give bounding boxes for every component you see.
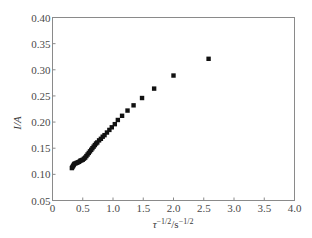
y-tick-label: 0.40 bbox=[31, 12, 51, 24]
plot-frame bbox=[53, 18, 295, 201]
scatter-chart: 00.51.01.52.02.53.03.54.0 0.050.100.150.… bbox=[0, 0, 312, 238]
y-axis-ticks: 0.050.100.150.200.250.300.350.40 bbox=[31, 12, 55, 207]
x-tick-label: 3.5 bbox=[257, 202, 271, 214]
x-axis-ticks: 00.51.01.52.02.53.03.54.0 bbox=[50, 198, 302, 214]
y-tick-label: 0.30 bbox=[31, 64, 51, 76]
y-tick-label: 0.35 bbox=[31, 38, 51, 50]
data-point-marker bbox=[171, 73, 175, 77]
x-tick-label: 2.5 bbox=[197, 202, 211, 214]
data-points bbox=[70, 57, 211, 171]
data-point-marker bbox=[131, 103, 135, 107]
y-tick-label: 0.25 bbox=[31, 90, 51, 102]
x-tick-label: 2.0 bbox=[167, 202, 181, 214]
y-axis-label: I/A bbox=[11, 116, 23, 131]
y-tick-label: 0.20 bbox=[31, 116, 51, 128]
y-tick-label: 0.10 bbox=[31, 168, 51, 180]
data-point-marker bbox=[116, 118, 120, 122]
y-tick-label: 0.15 bbox=[31, 142, 51, 154]
y-tick-label: 0.05 bbox=[31, 195, 51, 207]
data-point-marker bbox=[206, 57, 210, 61]
x-tick-label: 1.0 bbox=[106, 202, 120, 214]
data-point-marker bbox=[120, 114, 124, 118]
x-tick-label: 1.5 bbox=[136, 202, 150, 214]
x-tick-label: 0.5 bbox=[76, 202, 90, 214]
x-tick-label: 0 bbox=[50, 202, 56, 214]
data-point-marker bbox=[140, 96, 144, 100]
data-point-marker bbox=[152, 86, 156, 90]
x-tick-label: 3.0 bbox=[227, 202, 241, 214]
data-point-marker bbox=[113, 122, 117, 126]
data-point-marker bbox=[125, 108, 129, 112]
x-axis-label: τ−1/2/s−1/2 bbox=[153, 217, 194, 230]
x-tick-label: 4.0 bbox=[288, 202, 302, 214]
plot-border bbox=[53, 18, 295, 201]
